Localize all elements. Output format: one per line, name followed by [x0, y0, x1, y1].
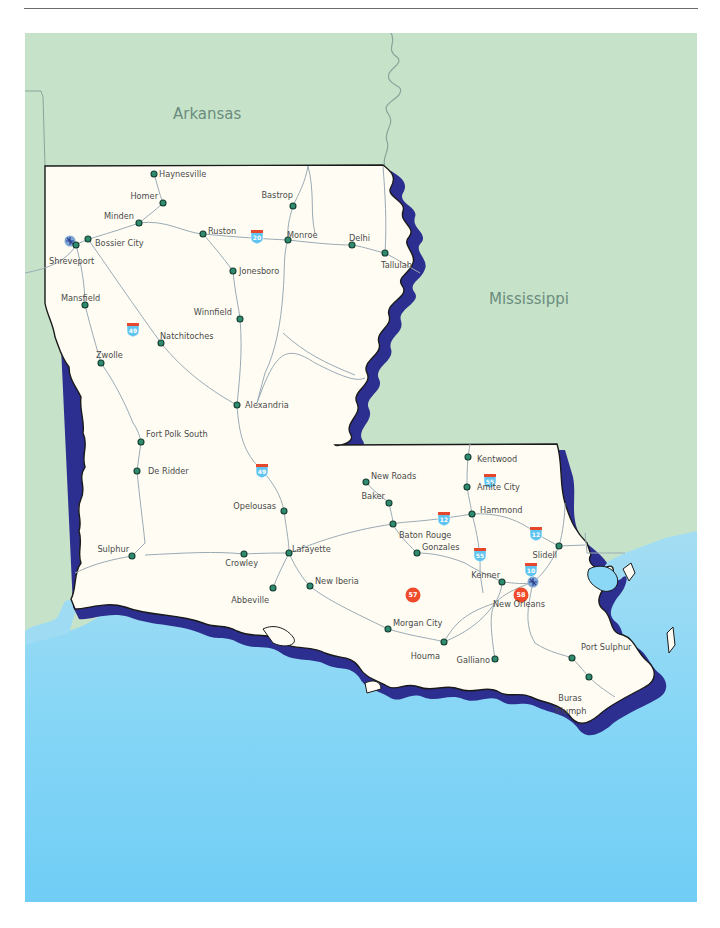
city-dot-icon: [556, 543, 562, 549]
city-marker: Triumph: [553, 706, 587, 716]
city-dot-icon: [98, 360, 104, 366]
city-dot-icon: [586, 674, 592, 680]
city-dot-icon: [151, 171, 157, 177]
city-dot-icon: [270, 585, 276, 591]
city-label: De Ridder: [148, 466, 189, 476]
airport-icon: [528, 577, 539, 588]
city-label: New Orleans: [493, 599, 545, 609]
city-label: Baker: [362, 491, 386, 501]
interstate-number: 20: [253, 234, 261, 241]
city-label: Shreveport: [49, 256, 95, 266]
city-label: Abbeville: [231, 595, 269, 605]
city-label: Delhi: [349, 233, 370, 243]
map-canvas: ArkansasMississippi 2049491212555510 575…: [25, 33, 697, 902]
city-dot-icon: [241, 551, 247, 557]
city-dot-icon: [160, 200, 166, 206]
city-dot-icon: [200, 231, 206, 237]
city-dot-icon: [492, 656, 498, 662]
city-dot-icon: [234, 402, 240, 408]
city-dot-icon: [386, 500, 392, 506]
city-dot-icon: [281, 508, 287, 514]
city-dot-icon: [414, 550, 420, 556]
city-label: Hammond: [480, 505, 523, 515]
interstate-shield-icon: 49: [256, 464, 268, 478]
city-dot-icon: [441, 639, 447, 645]
city-label: Mansfield: [61, 293, 100, 303]
city-label: Fort Polk South: [146, 429, 208, 439]
city-label: Zwolle: [96, 350, 123, 360]
city-label: Sulphur: [97, 544, 129, 554]
city-label: Baton Rouge: [399, 530, 451, 540]
city-label: Minden: [104, 211, 134, 221]
interstate-number: 49: [258, 468, 266, 475]
city-dot-icon: [363, 479, 369, 485]
city-dot-icon: [469, 511, 475, 517]
city-dot-icon: [138, 439, 144, 445]
city-label: Winnfield: [194, 307, 232, 317]
city-dot-icon: [129, 553, 135, 559]
city-label: Slidell: [532, 550, 557, 560]
city-label: New Roads: [371, 471, 416, 481]
city-label: Kenner: [471, 570, 500, 580]
top-rule: [24, 8, 698, 9]
city-label: Ruston: [208, 226, 236, 236]
city-label: Buras: [558, 693, 581, 703]
city-label: Opelousas: [233, 501, 276, 511]
city-label: Monroe: [287, 230, 318, 240]
city-label: Triumph: [553, 706, 587, 716]
city-label: Lafayette: [292, 544, 331, 554]
city-dot-icon: [230, 268, 236, 274]
city-label: Kentwood: [477, 454, 517, 464]
city-dot-icon: [390, 521, 396, 527]
city-dot-icon: [73, 242, 79, 248]
interstate-number: 55: [476, 552, 484, 559]
exit-number: 57: [408, 591, 417, 599]
interstate-number: 49: [129, 327, 137, 334]
interstate-shield-icon: 49: [127, 323, 139, 337]
city-label: Tallulah: [380, 260, 412, 270]
interstate-shield-icon: 12: [438, 512, 450, 526]
interstate-shield-icon: 10: [525, 563, 537, 577]
city-dot-icon: [464, 484, 470, 490]
city-label: Haynesville: [159, 169, 206, 179]
city-label: Natchitoches: [160, 331, 214, 341]
city-dot-icon: [290, 203, 296, 209]
city-label: Crowley: [225, 558, 258, 568]
interstate-shield-icon: 20: [251, 230, 263, 244]
city-dot-icon: [237, 316, 243, 322]
city-dot-icon: [85, 236, 91, 242]
city-label: Bastrop: [261, 190, 293, 200]
city-label: Jonesboro: [238, 266, 279, 276]
city-label: Houma: [411, 651, 440, 661]
city-label: Alexandria: [245, 400, 289, 410]
city-label: Galliano: [457, 655, 490, 665]
city-label: Gonzales: [422, 542, 459, 552]
city-marker: Haynesville: [151, 169, 206, 179]
city-label: Amite City: [477, 482, 520, 492]
city-dot-icon: [385, 626, 391, 632]
interstate-shield-icon: 12: [530, 527, 542, 541]
city-dot-icon: [307, 583, 313, 589]
interstate-number: 12: [532, 531, 540, 538]
exit-marker: 57: [406, 588, 421, 603]
interstate-number: 10: [527, 567, 535, 574]
city-label: Homer: [130, 191, 158, 201]
city-dot-icon: [569, 655, 575, 661]
interstate-shield-icon: 55: [474, 548, 486, 562]
city-marker: New Orleans: [493, 599, 545, 609]
city-label: New Iberia: [315, 576, 359, 586]
louisiana-map: ArkansasMississippi 2049491212555510 575…: [25, 33, 697, 902]
city-dot-icon: [465, 454, 471, 460]
city-dot-icon: [136, 220, 142, 226]
city-label: Bossier City: [95, 238, 144, 248]
state-label: Mississippi: [489, 290, 569, 308]
interstate-number: 12: [440, 516, 448, 523]
state-label: Arkansas: [173, 105, 242, 123]
city-dot-icon: [134, 468, 140, 474]
city-label: Morgan City: [393, 618, 443, 628]
city-dot-icon: [382, 250, 388, 256]
city-label: Port Sulphur: [581, 642, 632, 652]
